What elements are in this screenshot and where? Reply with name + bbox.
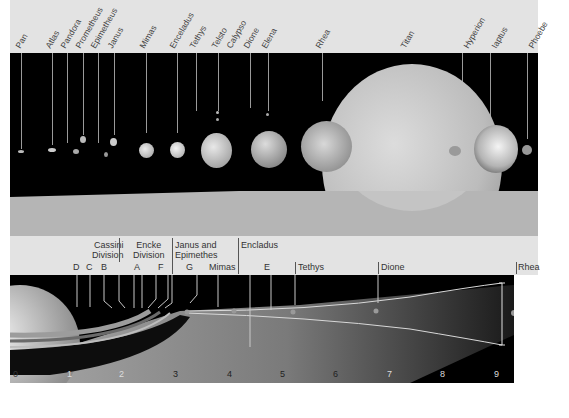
scale-tick-3: 3: [173, 369, 178, 379]
pointer-elena: [268, 53, 269, 111]
moon-mimas: [139, 143, 154, 158]
label-rhea-orbit: Rhea: [518, 262, 540, 272]
pointer-iaptus: [490, 53, 491, 123]
scale-tick-5: 5: [280, 369, 285, 379]
label-dione-orbit: Dione: [381, 262, 405, 272]
scale-tick-9: 9: [494, 369, 499, 379]
divider-rhea: [516, 262, 517, 274]
enceladus-dot: [232, 309, 237, 314]
pointer-janus: [114, 53, 115, 135]
pointer-epimetheus: [98, 53, 99, 143]
label-mimas: Mimas: [137, 23, 158, 50]
label-ring-b: B: [101, 262, 107, 272]
label-ring-f: F: [158, 262, 164, 272]
pointer-telsto: [218, 53, 219, 111]
scale-tick-1: 1: [67, 369, 72, 379]
label-janus-epimethes: Janus and Epimethes: [175, 240, 218, 260]
ring-system-diagram: [10, 275, 514, 383]
pointer-prometheus: [83, 53, 84, 135]
moons-panel: [10, 53, 538, 191]
moon-janus: [110, 138, 117, 146]
moon-hyperion: [449, 146, 461, 156]
label-ring-d: D: [73, 262, 80, 272]
label-hyperion: Hyperion: [461, 16, 487, 50]
label-rhea: Rhea: [313, 27, 332, 50]
scale-tick-6: 6: [333, 369, 338, 379]
pointer-pan: [21, 53, 22, 149]
tethys-dot: [291, 310, 296, 315]
label-atlas: Atlas: [43, 29, 61, 50]
label-encke-division: Encke Division: [133, 240, 165, 260]
moon-pandora: [73, 149, 79, 154]
moon-calypso: [216, 118, 219, 121]
pointer-atlas: [52, 53, 53, 145]
moon-epimetheus: [104, 152, 108, 157]
divider-tethys: [295, 262, 296, 274]
saturn-surface: [10, 191, 538, 236]
moon-dione: [251, 131, 287, 168]
label-titan: Titan: [398, 29, 416, 50]
pointer-rhea: [322, 53, 323, 101]
moon-phoebe: [522, 145, 532, 155]
label-ring-g: G: [186, 262, 193, 272]
scale-tick-7: 7: [387, 369, 392, 379]
saturn-horizon: [10, 191, 538, 236]
moon-iaptus: [474, 125, 518, 173]
pointer-pandora: [67, 53, 68, 143]
moon-pan: [18, 150, 24, 153]
scale-tick-8: 8: [440, 369, 445, 379]
mimas-dot: [185, 310, 190, 315]
divider-janus: [172, 238, 173, 274]
label-tethys: Tethys: [187, 24, 208, 50]
moon-telsto: [216, 111, 219, 114]
label-elena: Elena: [259, 26, 279, 50]
moon-atlas: [48, 148, 56, 152]
moon-prometheus: [80, 136, 86, 143]
divider-cassini: [119, 238, 120, 262]
rings-panel: 0 1 2 3 4 5 6 7 8 9: [10, 275, 514, 383]
moon-titan: [322, 64, 502, 191]
label-tethys-orbit: Tethys: [298, 262, 324, 272]
label-encladus-orbit: Encladus: [241, 240, 278, 250]
dione-dot: [374, 309, 379, 314]
label-ring-c: C: [86, 262, 93, 272]
moon-elena: [266, 113, 269, 116]
scale-tick-0: 0: [13, 369, 18, 379]
moon-tethys: [201, 133, 232, 168]
pointer-phoebe: [527, 53, 528, 139]
label-pan: Pan: [13, 32, 29, 50]
label-mimas-orbit: Mimas: [209, 262, 236, 272]
label-ring-e: E: [264, 262, 270, 272]
moon-enceladus: [170, 142, 185, 158]
scale-tick-4: 4: [227, 369, 232, 379]
label-ring-a: A: [134, 262, 140, 272]
scale-tick-2: 2: [119, 369, 124, 379]
pointer-enceladus: [177, 53, 178, 133]
pointer-dione: [250, 53, 251, 108]
moon-rhea: [301, 121, 352, 172]
top-label-strip: Pan Atlas Pandora Prometheus Epimetheus …: [10, 0, 538, 53]
divider-dione: [378, 262, 379, 274]
pointer-tethys: [196, 53, 197, 111]
label-iaptus: Iaptus: [489, 25, 509, 50]
pointer-mimas: [146, 53, 147, 133]
divider-encladus: [238, 238, 239, 274]
label-phoebe: Phoebe: [526, 20, 549, 50]
